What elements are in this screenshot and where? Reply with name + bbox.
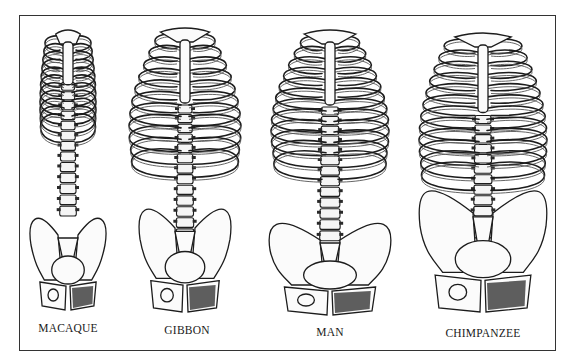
vertebra [60, 184, 76, 194]
vertebra-process [318, 138, 322, 141]
vertebra [474, 185, 492, 194]
vertebra [177, 154, 193, 163]
sternum [180, 40, 190, 103]
vertebra [178, 105, 192, 113]
label-gibbon: GIBBON [164, 324, 209, 336]
vertebra [320, 198, 340, 207]
vertebra-process [174, 187, 178, 190]
vertebra-process [57, 164, 61, 167]
vertebra [60, 173, 76, 182]
vertebra-process [491, 156, 495, 159]
vertebra-process [339, 222, 343, 225]
vertebra-process [339, 200, 343, 203]
vertebra [60, 152, 75, 161]
vertebra [61, 121, 75, 130]
obturator-foramen [48, 289, 58, 301]
vertebra-process [192, 198, 196, 201]
man-skeleton [269, 30, 391, 315]
vertebra-process [192, 187, 196, 190]
vertebra-process [192, 146, 196, 149]
vertebra [475, 144, 492, 152]
vertebra-process [173, 220, 177, 223]
vertebra-process [57, 154, 61, 157]
vertebra [320, 220, 340, 230]
vertebra [474, 165, 492, 174]
vertebra [474, 206, 493, 215]
pelvic-inlet [304, 261, 357, 289]
vertebra [320, 187, 339, 196]
vertebra [176, 218, 193, 228]
vertebra-process [174, 198, 178, 201]
vertebra [177, 207, 194, 217]
pelvic-inlet [52, 256, 85, 284]
obturator-shadow [487, 280, 526, 310]
pelvic-inlet [455, 241, 510, 278]
vertebra [177, 175, 193, 184]
vertebra-process [57, 175, 61, 178]
vertebra-process [472, 146, 476, 149]
skeleton-illustration [0, 0, 572, 360]
pelvic-inlet [165, 252, 205, 283]
vertebra-process [75, 197, 79, 200]
label-chimpanzee: CHIMPANZEE [445, 327, 520, 339]
vertebra [320, 209, 340, 219]
vertebra-process [174, 209, 178, 212]
vertebra-process [317, 211, 321, 214]
vertebra-process [339, 211, 343, 214]
vertebra [321, 166, 340, 175]
vertebra-process [491, 198, 495, 201]
label-macaque: MACAQUE [38, 322, 98, 334]
vertebra-process [338, 148, 342, 151]
vertebra [475, 125, 491, 133]
vertebra [61, 131, 76, 140]
vertebra-process [338, 138, 342, 141]
macaque-skeleton [30, 30, 106, 310]
vertebra-process [193, 209, 197, 212]
vertebra-process [75, 154, 79, 157]
obturator-foramen [449, 284, 467, 300]
vertebra-process [57, 186, 61, 189]
vertebra-process [472, 137, 476, 140]
vertebra [60, 206, 77, 216]
obturator-shadow [189, 285, 216, 310]
vertebra-process [339, 233, 343, 236]
vertebra-process [317, 233, 321, 236]
vertebra [474, 196, 492, 205]
vertebra-process [57, 208, 61, 211]
vertebra [321, 156, 340, 165]
vertebra-process [192, 156, 196, 159]
vertebra [60, 195, 76, 205]
gibbon-skeleton [129, 28, 241, 312]
vertebra-process [317, 222, 321, 225]
vertebra-process [193, 220, 197, 223]
vertebra-process [75, 208, 79, 211]
vertebra-process [75, 186, 79, 189]
vertebra-process [490, 146, 494, 149]
label-man: MAN [316, 326, 343, 338]
vertebra-process [174, 166, 178, 169]
vertebra-process [192, 166, 196, 169]
sternum [63, 42, 73, 85]
sternum [325, 42, 335, 105]
vertebra-process [174, 156, 178, 159]
vertebra-process [75, 175, 79, 178]
vertebra-process [318, 148, 322, 151]
vertebra-process [471, 198, 475, 201]
sternum [478, 45, 488, 113]
vertebra-process [317, 200, 321, 203]
vertebra [321, 126, 339, 134]
vertebra-process [75, 164, 79, 167]
vertebra [320, 177, 339, 186]
vertebra [474, 175, 492, 184]
vertebra [61, 142, 76, 151]
vertebra [321, 136, 339, 144]
vertebra [177, 185, 193, 194]
chimpanzee-skeleton [419, 33, 547, 312]
vertebra [177, 164, 193, 173]
obturator-foramen [161, 288, 174, 301]
vertebra-process [471, 156, 475, 159]
vertebra [178, 134, 193, 142]
vertebra-process [57, 197, 61, 200]
vertebra [177, 196, 194, 205]
vertebra-process [174, 146, 178, 149]
